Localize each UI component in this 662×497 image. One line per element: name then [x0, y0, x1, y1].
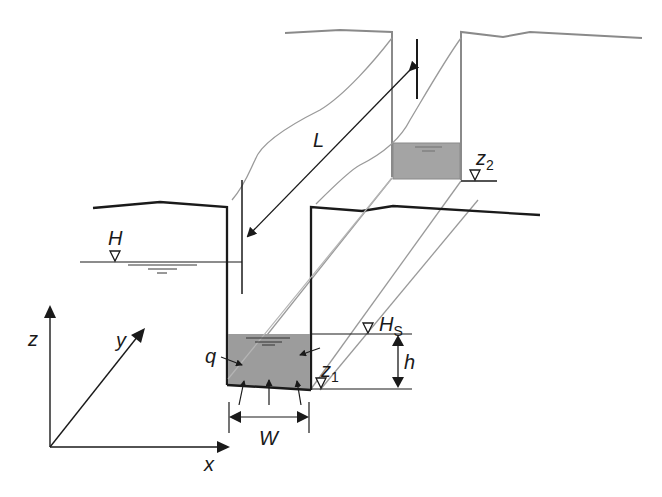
- label-q: q: [205, 346, 216, 366]
- label-axis-y: y: [116, 330, 126, 350]
- label-z2-sub: 2: [486, 157, 494, 173]
- h-water-surface-symbol: [128, 265, 197, 273]
- z-axis-arrowhead: [44, 305, 56, 318]
- x-axis-arrowhead: [217, 441, 230, 453]
- label-hs-sub: S: [393, 323, 402, 339]
- label-z1: z1: [321, 360, 339, 384]
- l-dimension-arrow: [248, 70, 410, 236]
- label-z2-main: z: [476, 147, 486, 169]
- back-ground-surface: [285, 30, 642, 180]
- label-w: W: [259, 428, 278, 448]
- h-level-triangle: [110, 251, 120, 261]
- trench-diagram: [0, 0, 662, 497]
- label-h-depth: h: [404, 352, 415, 372]
- back-trench-water: [393, 143, 460, 179]
- label-h-water: H: [108, 228, 122, 248]
- label-z1-main: z: [321, 359, 331, 381]
- label-hs-main: H: [379, 313, 393, 335]
- label-z2: z2: [476, 148, 494, 172]
- y-axis-arrowhead: [131, 328, 145, 343]
- label-axis-x: x: [204, 454, 214, 474]
- front-ground-surface: [93, 202, 540, 390]
- label-axis-z: z: [28, 329, 38, 349]
- label-hs: HS: [379, 314, 403, 338]
- label-l: L: [313, 130, 324, 150]
- label-z1-sub: 1: [331, 369, 339, 385]
